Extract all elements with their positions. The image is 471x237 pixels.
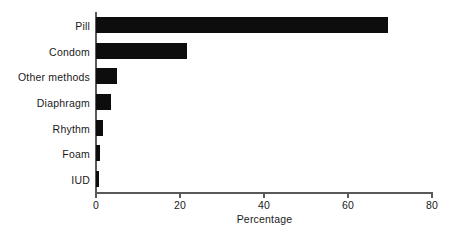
bar-diaphragm bbox=[96, 94, 111, 110]
x-tick-40 bbox=[263, 193, 265, 198]
bar-rect bbox=[96, 120, 103, 136]
x-tick-label-80: 80 bbox=[412, 199, 452, 211]
bar-iud bbox=[96, 171, 99, 187]
x-tick-0 bbox=[95, 193, 97, 198]
bar-rect bbox=[96, 171, 99, 187]
bar-rect bbox=[96, 145, 100, 161]
bar-rhythm bbox=[96, 120, 103, 136]
x-tick-label-40: 40 bbox=[244, 199, 284, 211]
y-axis-label-condom: Condom bbox=[0, 46, 90, 58]
y-axis-label-foam: Foam bbox=[0, 148, 90, 160]
y-axis-label-diaphragm: Diaphragm bbox=[0, 97, 90, 109]
y-axis-label-iud: IUD bbox=[0, 174, 90, 186]
y-axis-label-pill: Pill bbox=[0, 20, 90, 32]
bar-foam bbox=[96, 145, 100, 161]
bar-rect bbox=[96, 94, 111, 110]
x-tick-20 bbox=[179, 193, 181, 198]
x-tick-label-60: 60 bbox=[328, 199, 368, 211]
y-axis-label-rhythm: Rhythm bbox=[0, 123, 90, 135]
x-tick-label-20: 20 bbox=[160, 199, 200, 211]
x-tick-80 bbox=[431, 193, 433, 198]
y-axis-label-other-methods: Other methods bbox=[0, 71, 90, 83]
x-axis-title: Percentage bbox=[96, 213, 433, 225]
bar-other-methods bbox=[96, 68, 117, 84]
x-tick-label-0: 0 bbox=[76, 199, 116, 211]
bar-rect bbox=[96, 68, 117, 84]
bar-condom bbox=[96, 43, 187, 59]
bar-pill bbox=[96, 17, 388, 33]
bar-chart-figure: PillCondomOther methodsDiaphragmRhythmFo… bbox=[0, 0, 471, 237]
bar-rect bbox=[96, 43, 187, 59]
x-tick-60 bbox=[347, 193, 349, 198]
bar-rect bbox=[96, 17, 388, 33]
